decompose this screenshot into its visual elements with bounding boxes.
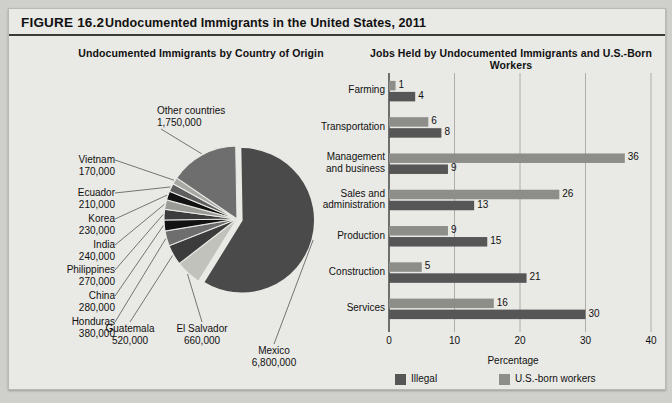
bar-u-s-born-workers-management-and-business <box>389 153 625 163</box>
bar-illegal-transportation <box>389 128 441 138</box>
x-tick-10: 10 <box>440 335 470 346</box>
pie-label-other-countries: Other countries1,750,000 <box>157 105 253 128</box>
bar-illegal-services <box>389 310 586 320</box>
x-axis-title: Percentage <box>413 355 613 366</box>
pie-label-value: 170,000 <box>27 166 115 178</box>
x-tick-0: 0 <box>374 335 404 346</box>
bar-category-line: Sales and <box>269 188 385 200</box>
bar-u-s-born-workers-sales-and-administration <box>389 190 559 200</box>
pie-label-value: 210,000 <box>27 199 115 211</box>
bar-category-line: and business <box>269 163 385 175</box>
bar-value-label: 36 <box>628 151 639 162</box>
pie-leader-line <box>115 160 174 180</box>
bar-chart: FarmingTransportationManagementand busin… <box>361 59 665 384</box>
pie-chart-subtitle: Undocumented Immigrants by Country of Or… <box>51 47 351 59</box>
pie-label-value: 240,000 <box>27 251 115 263</box>
figure-number: FIGURE 16.2 <box>21 15 104 30</box>
bar-value-label: 4 <box>418 90 424 101</box>
bar-u-s-born-workers-farming <box>389 81 396 91</box>
x-tick-40: 40 <box>636 335 666 346</box>
pie-label-country: Vietnam <box>27 154 115 166</box>
legend-swatch <box>499 374 510 385</box>
pie-label-guatemala: Guatemala520,000 <box>93 323 167 346</box>
pie-label-country: El Salvador <box>165 323 239 335</box>
pie-label-value: 280,000 <box>27 302 115 314</box>
bar-category-management-and-business: Managementand business <box>269 151 385 174</box>
pie-leader-line <box>115 215 163 270</box>
pie-label-philippines: Philippines270,000 <box>19 264 115 287</box>
x-tick-30: 30 <box>571 335 601 346</box>
pie-label-country: India <box>27 239 115 251</box>
bar-u-s-born-workers-construction <box>389 262 422 272</box>
bar-value-label: 8 <box>444 126 450 137</box>
pie-leader-line <box>115 239 166 322</box>
figure-title: Undocumented Immigrants in the United St… <box>105 16 426 30</box>
bar-value-label: 15 <box>490 235 501 246</box>
pie-label-value: 6,800,000 <box>231 357 317 369</box>
bar-illegal-sales-and-administration <box>389 201 474 211</box>
pie-label-mexico: Mexico6,800,000 <box>231 345 317 368</box>
bar-category-line: Services <box>269 302 385 314</box>
bar-category-transportation: Transportation <box>269 121 385 133</box>
bar-value-label: 9 <box>451 162 457 173</box>
pie-label-country: Other countries <box>157 105 253 117</box>
pie-label-country: Mexico <box>231 345 317 357</box>
figure-panel: FIGURE 16.2 Undocumented Immigrants in t… <box>8 8 666 390</box>
bar-illegal-construction <box>389 273 527 283</box>
pie-label-country: Ecuador <box>27 187 115 199</box>
bar-u-s-born-workers-production <box>389 226 448 236</box>
bar-category-line: Transportation <box>269 121 385 133</box>
pie-label-value: 660,000 <box>165 335 239 347</box>
bar-value-label: 5 <box>425 260 431 271</box>
pie-leader-line <box>115 226 163 296</box>
pie-label-vietnam: Vietnam170,000 <box>27 154 115 177</box>
bar-category-line: administration <box>269 199 385 211</box>
pie-label-country: Philippines <box>19 264 115 276</box>
pie-label-korea: Korea230,000 <box>27 213 115 236</box>
bar-category-line: Construction <box>269 266 385 278</box>
bar-category-sales-and-administration: Sales andadministration <box>269 188 385 211</box>
pie-label-country: China <box>27 290 115 302</box>
bar-category-production: Production <box>269 230 385 242</box>
pie-label-value: 1,750,000 <box>157 117 253 129</box>
bar-u-s-born-workers-services <box>389 299 494 309</box>
bar-u-s-born-workers-transportation <box>389 117 428 127</box>
pie-label-el-salvador: El Salvador660,000 <box>165 323 239 346</box>
pie-label-country: Guatemala <box>93 323 167 335</box>
bar-category-services: Services <box>269 302 385 314</box>
pie-leader-line <box>161 129 202 154</box>
bar-value-label: 21 <box>530 271 541 282</box>
bar-value-label: 6 <box>431 115 437 126</box>
bar-value-label: 13 <box>477 199 488 210</box>
bar-illegal-production <box>389 237 487 247</box>
bar-category-farming: Farming <box>269 84 385 96</box>
pie-label-ecuador: Ecuador210,000 <box>27 187 115 210</box>
pie-leader-line <box>187 274 202 322</box>
pie-label-value: 230,000 <box>27 225 115 237</box>
legend-swatch <box>395 374 406 385</box>
bar-value-label: 26 <box>562 188 573 199</box>
bar-value-label: 30 <box>589 308 600 319</box>
bar-category-line: Management <box>269 151 385 163</box>
figure-title-bar: FIGURE 16.2 Undocumented Immigrants in t… <box>9 9 665 36</box>
pie-chart: Vietnam170,000Ecuador210,000Korea230,000… <box>9 59 359 384</box>
pie-label-india: India240,000 <box>27 239 115 262</box>
bar-illegal-farming <box>389 92 415 102</box>
bar-value-label: 16 <box>497 297 508 308</box>
pie-label-country: Korea <box>27 213 115 225</box>
pie-label-china: China280,000 <box>27 290 115 313</box>
pie-leader-line <box>115 204 164 245</box>
legend-label: Illegal <box>411 373 437 384</box>
bar-category-line: Production <box>269 230 385 242</box>
pie-leader-line <box>115 187 170 193</box>
x-tick-20: 20 <box>505 335 535 346</box>
bar-illegal-management-and-business <box>389 164 448 174</box>
pie-leader-line <box>115 195 167 219</box>
pie-label-value: 270,000 <box>19 276 115 288</box>
pie-label-value: 520,000 <box>93 335 167 347</box>
bar-category-construction: Construction <box>269 266 385 278</box>
bar-category-line: Farming <box>269 84 385 96</box>
bar-value-label: 9 <box>451 224 457 235</box>
legend-label: U.S.-born workers <box>515 373 596 384</box>
bar-value-label: 1 <box>399 79 405 90</box>
